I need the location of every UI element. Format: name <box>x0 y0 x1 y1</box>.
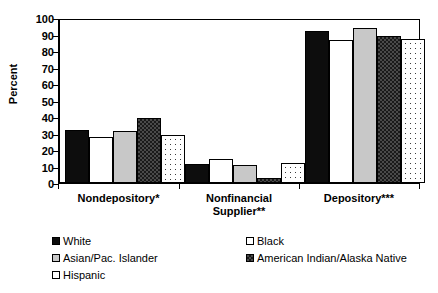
bar-group-nonfinancial-supplier <box>185 20 303 183</box>
chart-legend: White Asian/Pac. Islander Hispanic Black… <box>52 235 432 285</box>
legend-swatch-american-indian-icon <box>246 254 254 262</box>
legend-item-asian: Asian/Pac. Islander <box>52 252 158 264</box>
x-label-line2: Supplier** <box>179 205 299 218</box>
legend-item-black: Black <box>246 235 284 247</box>
y-tick-label: 80 <box>20 47 54 58</box>
legend-swatch-white-icon <box>52 237 60 245</box>
bar-asian-nonfinancial <box>233 165 257 183</box>
legend-label-american-indian: American Indian/Alaska Native <box>257 252 407 264</box>
bar-amerind-nondepository <box>137 118 161 183</box>
legend-swatch-black-icon <box>246 237 254 245</box>
bar-amerind-nonfinancial <box>257 178 281 183</box>
y-tick-label: 0 <box>20 179 54 190</box>
bar-black-depository <box>329 40 353 183</box>
bar-hispanic-nonfinancial <box>281 163 305 183</box>
bar-groups <box>60 20 419 183</box>
y-tick-label: 20 <box>20 146 54 157</box>
y-tick-label: 10 <box>20 162 54 173</box>
legend-label-white: White <box>63 235 91 247</box>
x-label-line1: Nonfinancial <box>179 192 299 205</box>
bar-white-nondepository <box>65 130 89 183</box>
bar-hispanic-depository <box>401 39 425 183</box>
bar-group-depository <box>305 20 423 183</box>
x-axis-ticks <box>58 184 420 190</box>
bar-amerind-depository <box>377 36 401 184</box>
y-tick-label: 40 <box>20 113 54 124</box>
bar-asian-nondepository <box>113 131 137 183</box>
x-label-line1: Nondepository* <box>58 192 179 205</box>
bar-black-nonfinancial <box>209 159 233 183</box>
legend-item-american-indian: American Indian/Alaska Native <box>246 252 407 264</box>
y-tick-label: 90 <box>20 30 54 41</box>
y-tick-label: 30 <box>20 129 54 140</box>
x-tick-mark <box>419 184 420 189</box>
y-tick-label: 50 <box>20 96 54 107</box>
bar-group-nondepository <box>65 20 183 183</box>
x-tick-mark <box>58 184 59 189</box>
x-tick-mark <box>299 184 300 189</box>
x-label-nonfinancial-supplier: Nonfinancial Supplier** <box>179 192 299 218</box>
x-label-line1: Depository*** <box>299 192 419 205</box>
bar-white-depository <box>305 31 329 183</box>
y-tick-label: 100 <box>20 14 54 25</box>
bar-white-nonfinancial <box>185 164 209 183</box>
legend-item-white: White <box>52 235 91 247</box>
legend-swatch-hispanic-icon <box>52 271 60 279</box>
y-axis-title: Percent <box>7 49 19 119</box>
bar-asian-depository <box>353 28 377 183</box>
x-axis-labels: Nondepository* Nonfinancial Supplier** D… <box>58 192 420 228</box>
bar-chart: Percent 100 90 80 70 60 50 40 30 20 10 0 <box>0 0 438 293</box>
y-tick-label: 60 <box>20 80 54 91</box>
legend-item-hispanic: Hispanic <box>52 269 105 281</box>
legend-swatch-asian-icon <box>52 254 60 262</box>
x-label-depository: Depository*** <box>299 192 419 205</box>
legend-label-hispanic: Hispanic <box>63 269 105 281</box>
x-tick-mark <box>179 184 180 189</box>
y-axis-tick-labels: 100 90 80 70 60 50 40 30 20 10 0 <box>20 19 54 184</box>
bar-black-nondepository <box>89 137 113 183</box>
legend-label-black: Black <box>257 235 284 247</box>
legend-label-asian: Asian/Pac. Islander <box>63 252 158 264</box>
bar-hispanic-nondepository <box>161 135 185 183</box>
y-tick-label: 70 <box>20 63 54 74</box>
x-label-nondepository: Nondepository* <box>58 192 179 205</box>
